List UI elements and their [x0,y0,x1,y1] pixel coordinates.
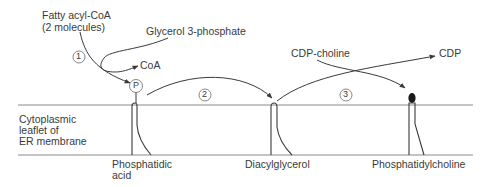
step-1-label: 1 [76,51,81,63]
phosphatidylcholine-tails [409,103,424,155]
diacylglycerol-tails [271,103,292,155]
step-3-label: 3 [343,89,348,101]
choline-head-icon [408,93,415,103]
phosphate-label: P [133,80,139,92]
diacylglycerol-label: Diacylglycerol [245,159,310,171]
membrane-label-line-3: ER membrane [19,136,87,148]
cdp-label: CDP [439,48,461,60]
fatty-acyl-coa-label: Fatty acyl-CoA [42,10,111,22]
phosphatidic-acid-label-line-2: acid [112,170,131,182]
coa-label: CoA [140,60,160,72]
fatty-acyl-coa-count-label: (2 molecules) [42,22,105,34]
cdp-choline-label: CDP-choline [291,48,350,60]
step-2-label: 2 [202,89,207,101]
phosphatidylcholine-label: Phosphatidylcholine [372,159,465,171]
phosphatidic-acid-tails [132,103,151,155]
glycerol-3-phosphate-label: Glycerol 3-phosphate [146,26,246,38]
